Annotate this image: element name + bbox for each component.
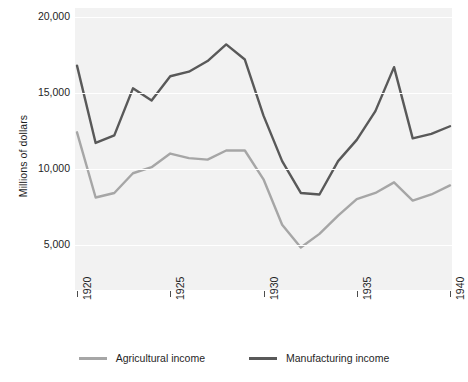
y-axis-tick-label: 20,000 [18, 11, 70, 22]
series-line [77, 44, 450, 194]
series-line [77, 132, 450, 247]
plot-area [75, 8, 452, 290]
x-axis-tick-mark [77, 291, 78, 297]
x-axis-tick-label: 1920 [82, 277, 93, 300]
y-axis-tick-labels: 5,00010,00015,00020,000 [18, 0, 70, 382]
y-axis-tick-label: 15,000 [18, 87, 70, 98]
legend-swatch-icon [79, 357, 107, 360]
gridline [75, 17, 452, 18]
x-axis-tick-mark [357, 291, 358, 297]
legend-label: Agricultural income [116, 352, 205, 364]
gridline [75, 169, 452, 170]
gridline [75, 93, 452, 94]
legend-item[interactable]: Agricultural income [79, 352, 205, 364]
x-axis-tick-label: 1930 [269, 277, 280, 300]
gridline [75, 245, 452, 246]
line-chart: Millions of dollars 5,00010,00015,00020,… [0, 0, 468, 382]
series-lines [75, 8, 452, 290]
x-axis-tick-mark [450, 291, 451, 297]
y-axis-tick-label: 5,000 [18, 239, 70, 250]
x-axis-tick-mark [170, 291, 171, 297]
x-axis-tick-label: 1935 [362, 277, 373, 300]
x-axis-tick-mark [264, 291, 265, 297]
legend-swatch-icon [249, 357, 277, 360]
y-axis-tick-label: 10,000 [18, 163, 70, 174]
x-axis-tick-label: 1925 [175, 277, 186, 300]
legend-label: Manufacturing income [286, 352, 389, 364]
legend-item[interactable]: Manufacturing income [249, 352, 389, 364]
x-axis-tick-label: 1940 [455, 277, 466, 300]
chart-legend: Agricultural incomeManufacturing income [0, 352, 468, 364]
